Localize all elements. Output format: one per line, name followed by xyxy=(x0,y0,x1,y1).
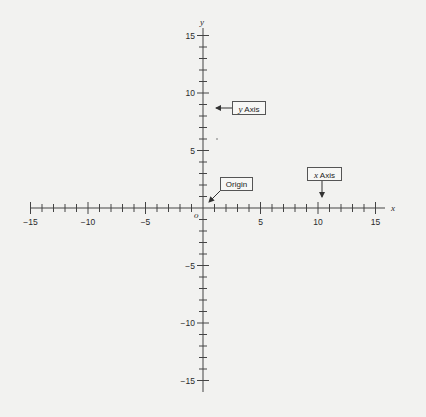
y-axis-name: y xyxy=(199,17,204,27)
coordinate-plane: −15−10−551015 15105−5−10−15 x y o xyxy=(0,0,426,417)
x-axis-tick-labels: −15−10−551015 xyxy=(23,217,380,227)
origin-callout: Origin xyxy=(220,177,253,191)
x-axis-callout: x Axis xyxy=(307,167,342,181)
x-tick-label: −10 xyxy=(81,217,96,227)
x-tick-label: 5 xyxy=(258,217,263,227)
x-tick-label: −5 xyxy=(141,217,151,227)
x-axis-name: x xyxy=(390,203,395,213)
y-tick-label: −15 xyxy=(181,376,196,386)
origin-callout-arrow xyxy=(209,191,220,202)
y-tick-label: −10 xyxy=(181,318,196,328)
y-tick-label: 5 xyxy=(190,146,195,156)
y-tick-label: −5 xyxy=(185,261,195,271)
y-axis-callout-text: Axis xyxy=(243,105,260,114)
y-tick-label: 10 xyxy=(186,88,196,98)
y-tick-label: 15 xyxy=(186,31,196,41)
origin-label: o xyxy=(194,210,199,220)
x-tick-label: 15 xyxy=(371,217,381,227)
speck-dot xyxy=(216,138,218,140)
x-tick-label: 10 xyxy=(313,217,323,227)
x-axis-callout-text: Axis xyxy=(318,171,335,180)
y-axis-callout: y Axis xyxy=(232,101,266,115)
x-tick-label: −15 xyxy=(23,217,38,227)
origin-callout-text: Origin xyxy=(226,180,247,189)
